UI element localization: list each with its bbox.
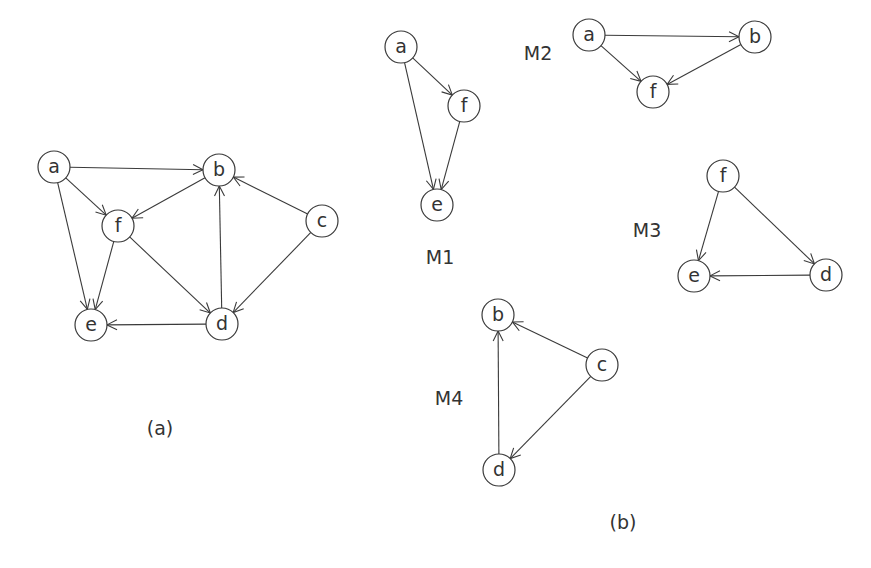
edge-f-to-d bbox=[735, 187, 815, 264]
graph-M1-nodes: afe bbox=[385, 31, 480, 221]
edge-f-to-e bbox=[696, 191, 718, 260]
graph-caption-m4: M4 bbox=[435, 387, 463, 409]
edge-c-to-d bbox=[233, 232, 311, 312]
node-a: a bbox=[38, 151, 70, 183]
edge-a-to-f bbox=[413, 58, 453, 95]
graph-main-nodes: abcfed bbox=[38, 151, 338, 341]
graph-caption-main: (a) bbox=[147, 417, 173, 439]
node-label: e bbox=[85, 313, 97, 335]
edge-a-to-f bbox=[601, 46, 641, 82]
node-b: b bbox=[739, 21, 771, 53]
node-label: b bbox=[213, 158, 225, 180]
node-c: c bbox=[586, 349, 618, 381]
node-e: e bbox=[678, 260, 710, 292]
node-label: a bbox=[583, 23, 595, 45]
node-label: b bbox=[749, 25, 761, 47]
edge-c-to-b bbox=[233, 177, 307, 214]
graph-M4-nodes: bcd bbox=[482, 299, 618, 486]
node-label: a bbox=[48, 155, 60, 177]
node-a: a bbox=[573, 19, 605, 51]
edge-b-to-f bbox=[132, 178, 205, 218]
graph-M3-nodes: fed bbox=[678, 160, 842, 292]
node-f: f bbox=[102, 210, 134, 242]
graph-M2-nodes: abf bbox=[573, 19, 771, 108]
graph-main-edges bbox=[58, 165, 311, 330]
edge-a-to-e bbox=[58, 183, 90, 310]
node-label: c bbox=[597, 353, 607, 375]
node-label: e bbox=[688, 264, 700, 286]
graph-caption-m1: M1 bbox=[426, 246, 454, 268]
node-label: d bbox=[493, 458, 505, 480]
graph-M2-edges bbox=[601, 32, 741, 85]
node-label: e bbox=[431, 193, 443, 215]
graph-caption-m2: M2 bbox=[524, 42, 552, 64]
edge-a-to-f bbox=[66, 178, 106, 215]
node-label: c bbox=[317, 209, 327, 231]
node-b: b bbox=[203, 154, 235, 186]
node-label: d bbox=[820, 263, 832, 285]
motif-diagram: abcfedafeabffedbcd (a) (b) (a)M1M2M3M4 bbox=[0, 0, 871, 568]
panel-caption-b: (b) bbox=[610, 511, 637, 533]
graph-caption-m3: M3 bbox=[633, 219, 661, 241]
node-f: f bbox=[448, 90, 480, 122]
node-c: c bbox=[306, 205, 338, 237]
edge-d-to-e bbox=[107, 320, 206, 330]
edge-d-to-b bbox=[493, 331, 503, 454]
edge-a-to-e bbox=[405, 63, 437, 190]
node-d: d bbox=[810, 259, 842, 291]
node-label: d bbox=[216, 312, 228, 334]
edge-f-to-d bbox=[130, 237, 211, 313]
edge-d-to-b bbox=[215, 186, 225, 308]
node-f: f bbox=[637, 76, 669, 108]
captions-layer: (a) (b) (a)M1M2M3M4 bbox=[147, 42, 661, 533]
graph-M1-edges bbox=[405, 58, 460, 190]
node-d: d bbox=[206, 308, 238, 340]
node-label: b bbox=[492, 303, 504, 325]
edge-b-to-f bbox=[667, 45, 741, 85]
edge-a-to-b bbox=[70, 165, 203, 175]
edge-f-to-e bbox=[439, 121, 460, 189]
node-e: e bbox=[75, 309, 107, 341]
edge-a-to-b bbox=[605, 32, 739, 42]
edge-d-to-e bbox=[710, 271, 810, 281]
node-b: b bbox=[482, 299, 514, 331]
graph-M4-edges bbox=[493, 322, 591, 459]
node-d: d bbox=[483, 454, 515, 486]
node-f: f bbox=[707, 160, 739, 192]
edge-f-to-e bbox=[93, 241, 114, 309]
graph-M3-edges bbox=[696, 187, 814, 281]
node-label: a bbox=[395, 35, 407, 57]
edge-c-to-b bbox=[512, 322, 587, 358]
node-e: e bbox=[421, 189, 453, 221]
edge-c-to-d bbox=[510, 376, 591, 458]
node-a: a bbox=[385, 31, 417, 63]
